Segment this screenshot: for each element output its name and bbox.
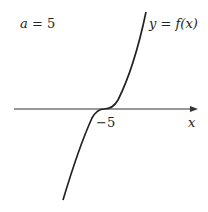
x-axis-arrow-icon: [190, 106, 198, 112]
curve-label-arg: (x): [180, 16, 197, 31]
param-var: a: [20, 16, 28, 31]
parameter-label: a = 5: [20, 16, 55, 31]
curve-label-eq: =: [156, 16, 175, 31]
graph-canvas: [0, 0, 208, 212]
param-value: = 5: [28, 16, 55, 31]
x-axis-label: x: [188, 115, 195, 130]
graph-figure: a = 5 y = f(x) −5 x: [0, 0, 208, 212]
tick-label-minus-5: −5: [96, 115, 115, 130]
function-curve: [63, 12, 146, 200]
curve-label: y = f(x): [149, 16, 198, 31]
